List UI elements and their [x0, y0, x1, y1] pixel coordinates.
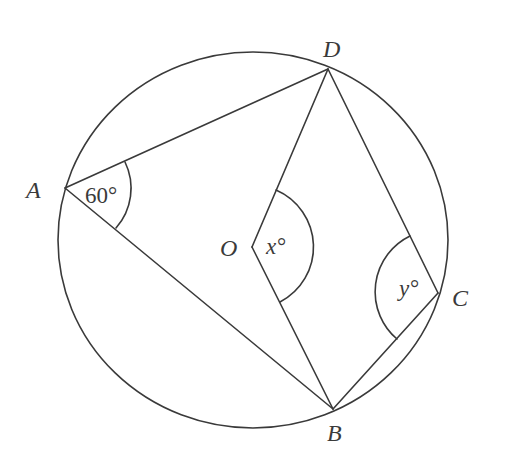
- angle-arc-A: [116, 162, 131, 228]
- segment-BC: [333, 293, 438, 409]
- label-B: B: [327, 420, 342, 446]
- angle-label-O: x°: [265, 234, 285, 259]
- circle: [58, 52, 448, 428]
- geometry-figure: D A O C B 60° x° y°: [0, 0, 505, 458]
- segment-OB: [252, 247, 333, 409]
- label-A: A: [24, 177, 41, 203]
- label-O: O: [220, 235, 237, 261]
- segment-OD: [252, 69, 328, 247]
- segment-AB: [65, 188, 333, 409]
- segment-AD: [65, 69, 328, 188]
- segment-DC: [328, 69, 438, 293]
- label-D: D: [322, 36, 340, 62]
- label-C: C: [452, 285, 469, 311]
- angle-label-A: 60°: [85, 183, 117, 208]
- angle-label-C: y°: [397, 276, 418, 301]
